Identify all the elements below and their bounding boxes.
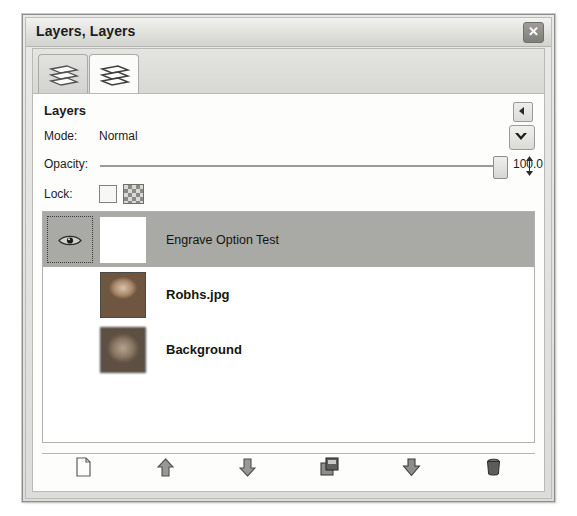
layers-dialog-window: Layers, Layers ✕ (22, 14, 555, 502)
layer-name: Engrave Option Test (166, 233, 279, 247)
opacity-slider-handle[interactable] (493, 156, 508, 179)
layers-tab-2[interactable] (89, 54, 139, 95)
opacity-spinner[interactable] (524, 155, 535, 177)
tab-strip (32, 48, 545, 95)
layer-name: Background (166, 342, 242, 357)
raise-layer-button[interactable] (124, 454, 206, 484)
opacity-label: Opacity: (44, 157, 88, 171)
collapse-button[interactable] (513, 102, 533, 122)
opacity-slider-track[interactable] (100, 165, 494, 167)
page-title: Layers (44, 103, 86, 118)
layers-tab-1[interactable] (38, 54, 88, 95)
delete-layer-button[interactable] (453, 454, 535, 484)
lower-layer-button[interactable] (206, 454, 288, 484)
checkerboard-icon[interactable] (123, 184, 144, 204)
duplicate-icon (320, 457, 340, 481)
triangle-left-icon (514, 105, 530, 122)
table-row[interactable]: Engrave Option Test (43, 212, 534, 267)
layer-list[interactable]: Engrave Option Test Robhs.jpg Background (42, 211, 535, 443)
new-layer-button[interactable] (42, 454, 124, 484)
title-bar: Layers, Layers ✕ (26, 18, 551, 47)
layer-thumbnail (100, 327, 146, 373)
close-icon: ✕ (524, 24, 543, 40)
anchor-icon (402, 458, 421, 481)
layer-visibility-toggle[interactable] (43, 212, 96, 267)
arrow-down-icon (239, 458, 256, 481)
trash-icon (485, 458, 502, 481)
layers-panel: Layers Mode: Normal Opacity: 100.0 (32, 93, 545, 492)
panel-menu-button[interactable] (509, 125, 535, 150)
layer-visibility-toggle[interactable] (43, 322, 96, 377)
arrow-up-icon (157, 458, 174, 481)
layer-toolbar (42, 453, 535, 484)
table-row[interactable]: Robhs.jpg (43, 267, 534, 322)
chevron-down-icon (510, 133, 532, 150)
layer-thumbnail (100, 272, 146, 318)
lock-label: Lock: (44, 187, 73, 201)
window-title: Layers, Layers (36, 23, 135, 39)
layer-name: Robhs.jpg (166, 287, 230, 302)
close-button[interactable]: ✕ (523, 22, 544, 43)
table-row[interactable]: Background (43, 322, 534, 377)
layer-visibility-toggle[interactable] (43, 267, 96, 322)
mode-dropdown[interactable]: Normal (99, 129, 138, 143)
lock-pixels-checkbox[interactable] (99, 185, 117, 203)
mode-label: Mode: (44, 129, 77, 143)
anchor-layer-button[interactable] (371, 454, 453, 484)
layer-thumbnail (100, 217, 146, 263)
duplicate-layer-button[interactable] (289, 454, 371, 484)
document-icon (75, 457, 92, 481)
